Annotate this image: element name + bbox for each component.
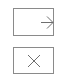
enter-button[interactable] (13, 8, 54, 36)
arrow-right-icon (14, 9, 55, 37)
close-icon (14, 48, 55, 75)
close-button[interactable] (13, 47, 54, 74)
